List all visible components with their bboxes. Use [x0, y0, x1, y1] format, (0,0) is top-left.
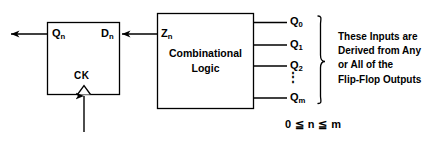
annotation-text: These Inputs areDerived from Anyor All o… — [338, 30, 421, 87]
logic-input-label-1: Q1 — [290, 39, 303, 50]
grouping-brace — [318, 16, 325, 104]
flip-flop-input-label: Dn — [101, 28, 114, 39]
annotation-line-3: or All of the — [338, 59, 393, 70]
flip-flop-output-label: Qn — [52, 28, 65, 39]
logic-input-label-2: Q2 — [290, 60, 303, 71]
logic-input-signal-label: Zn — [161, 28, 172, 39]
combinational-logic-label-line2: Logic — [192, 62, 220, 74]
clock-label: CK — [74, 71, 89, 81]
annotation-line-1: These Inputs are — [338, 31, 417, 42]
combinational-logic-label-line1: Combinational — [169, 47, 242, 59]
logic-diagram: Qn Dn CK Zn CombinationalLogic Q0 Q1 Q2 … — [0, 0, 426, 142]
annotation-line-4: Flip-Flop Outputs — [338, 74, 421, 85]
logic-input-label-0: Q0 — [290, 16, 303, 27]
combinational-logic-label: CombinationalLogic — [158, 46, 253, 76]
logic-input-label-3: Qm — [290, 92, 305, 103]
constraint-expression: 0 ≦ n ≦ m — [285, 119, 341, 130]
vertical-ellipsis: ⋮ — [286, 74, 300, 81]
annotation-line-2: Derived from Any — [338, 45, 421, 56]
